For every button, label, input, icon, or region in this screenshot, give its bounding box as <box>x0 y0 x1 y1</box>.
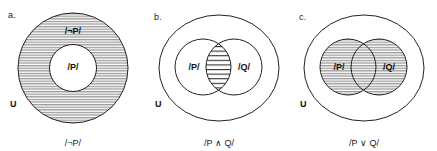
panel-letter-a: a. <box>8 10 16 20</box>
universe-label-c: U <box>300 99 307 109</box>
panel-conjunction: b. /P/ /Q/ U /P ∧ Q/ <box>146 0 292 151</box>
panel-letter-c: c. <box>299 12 306 22</box>
label-set-p: /P/ <box>179 62 209 72</box>
caption-c: /P ∨ Q/ <box>291 138 437 148</box>
panel-letter-b: b. <box>154 12 162 22</box>
caption-b: /P ∧ Q/ <box>146 138 292 148</box>
label-not-p-region: /¬P/ <box>0 26 146 36</box>
panel-a-graphic <box>0 0 146 151</box>
label-p-region: /P/ <box>0 62 146 72</box>
label-set-p: /P/ <box>324 62 354 72</box>
universe-label-b: U <box>155 99 162 109</box>
universe-label-a: U <box>10 99 17 109</box>
label-set-q: /Q/ <box>229 62 259 72</box>
caption-a: /¬P/ <box>0 138 146 148</box>
panel-c-graphic <box>291 0 437 151</box>
panel-negation: a. /¬P/ /P/ U /¬P/ <box>0 0 146 151</box>
panel-b-graphic <box>146 0 292 151</box>
label-set-q: /Q/ <box>374 62 404 72</box>
panel-disjunction: c. /P/ /Q/ U /P ∨ Q/ <box>291 0 437 151</box>
venn-diagram-figure: a. /¬P/ /P/ U /¬P/ <box>0 0 437 151</box>
